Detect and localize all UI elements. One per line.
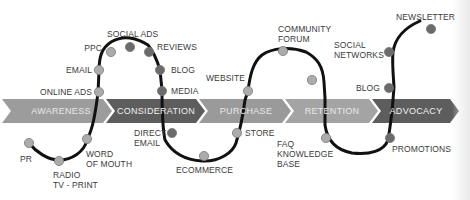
dot-ecommerce[interactable] bbox=[199, 151, 208, 160]
dot-blog[interactable] bbox=[155, 65, 164, 74]
dot-media[interactable] bbox=[157, 86, 166, 95]
page-edge-shadow bbox=[452, 0, 470, 200]
label-ppc: PPC bbox=[72, 43, 102, 53]
dot-store[interactable] bbox=[232, 128, 241, 137]
label-blog-advocacy: BLOG bbox=[340, 83, 380, 93]
dot-newsletter[interactable] bbox=[426, 24, 435, 33]
label-media: MEDIA bbox=[171, 86, 198, 96]
stage-label-awareness: AWARENESS bbox=[18, 105, 104, 117]
label-direct-email: DIRECT EMAIL bbox=[134, 128, 166, 148]
label-online-ads: ONLINE ADS bbox=[30, 87, 92, 97]
label-store: STORE bbox=[245, 128, 275, 138]
label-ecommerce: ECOMMERCE bbox=[176, 165, 233, 175]
dot-word-of-mouth[interactable] bbox=[82, 134, 91, 143]
dot-blog-advocacy[interactable] bbox=[384, 83, 393, 92]
label-social-ads: SOCIAL ADS bbox=[107, 29, 158, 39]
label-word-of-mouth: WORD OF MOUTH bbox=[86, 149, 132, 169]
dot-community-forum[interactable] bbox=[278, 46, 287, 55]
dot-reviews[interactable] bbox=[144, 47, 153, 56]
label-promotions: PROMOTIONS bbox=[392, 144, 451, 154]
dot-online-ads[interactable] bbox=[94, 87, 103, 96]
label-pr: PR bbox=[20, 154, 32, 164]
label-website: WEBSITE bbox=[206, 73, 245, 83]
dot-ppc[interactable] bbox=[106, 47, 115, 56]
label-newsletter: NEWSLETTER bbox=[396, 12, 455, 22]
dot-pr[interactable] bbox=[24, 138, 33, 147]
stage-label-purchase: PURCHASE bbox=[206, 105, 286, 117]
dot-social-ads[interactable] bbox=[125, 42, 134, 51]
dot-promotions[interactable] bbox=[385, 133, 394, 142]
label-reviews: REVIEWS bbox=[157, 42, 197, 52]
label-blog: BLOG bbox=[171, 65, 195, 75]
dot-retention-top[interactable] bbox=[307, 75, 316, 84]
stage-label-advocacy: ADVOCACY bbox=[378, 105, 454, 117]
dot-radio[interactable] bbox=[54, 156, 63, 165]
dot-direct-email[interactable] bbox=[167, 128, 176, 137]
dot-social-networks[interactable] bbox=[384, 47, 393, 56]
dot-website[interactable] bbox=[243, 86, 252, 95]
label-radio-tv-print: RADIO TV - PRINT bbox=[53, 170, 98, 190]
customer-journey-diagram: AWARENESS CONSIDERATION PURCHASE RETENTI… bbox=[0, 0, 470, 200]
stage-label-retention: RETENTION bbox=[292, 105, 372, 117]
label-email: EMAIL bbox=[52, 65, 92, 75]
label-social-networks: SOCIAL NETWORKS bbox=[334, 40, 384, 60]
label-community-forum: COMMUNITY FORUM bbox=[278, 24, 331, 44]
label-faq-knowledge-base: FAQ KNOWLEDGE BASE bbox=[277, 139, 333, 169]
dot-email[interactable] bbox=[94, 65, 103, 74]
stage-label-consideration: CONSIDERATION bbox=[112, 105, 200, 117]
